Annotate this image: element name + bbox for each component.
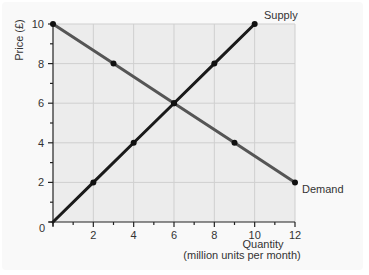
y-tick-label: 6 xyxy=(38,97,44,109)
supply-point xyxy=(90,179,96,185)
demand-label: Demand xyxy=(302,183,344,195)
y-tick-label: 8 xyxy=(38,58,44,70)
y-tick-label: 4 xyxy=(38,137,44,149)
x-tick-label: 8 xyxy=(211,229,217,241)
supply-point xyxy=(211,61,217,67)
demand-point xyxy=(171,100,177,106)
y-tick-label: 2 xyxy=(38,176,44,188)
supply-point xyxy=(252,21,258,27)
demand-point xyxy=(111,61,117,67)
supply-demand-chart: 246810122468100 Supply Demand Quantity (… xyxy=(0,0,369,275)
x-tick-label: 6 xyxy=(171,229,177,241)
supply-point xyxy=(131,140,137,146)
origin-label: 0 xyxy=(39,222,45,234)
y-axis-title: Price (£) xyxy=(13,19,25,61)
y-tick-label: 10 xyxy=(32,18,44,30)
x-tick-label: 12 xyxy=(289,229,301,241)
x-axis-subtitle: (million units per month) xyxy=(183,249,300,261)
demand-point xyxy=(292,179,298,185)
demand-point xyxy=(50,21,56,27)
demand-point xyxy=(232,140,238,146)
supply-label: Supply xyxy=(264,9,298,21)
x-tick-label: 2 xyxy=(90,229,96,241)
x-tick-label: 4 xyxy=(131,229,137,241)
